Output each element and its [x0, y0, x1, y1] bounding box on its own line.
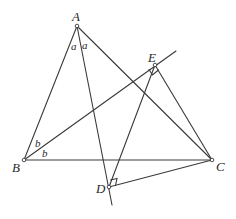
right-angle-mark-D — [111, 179, 118, 186]
bisector-AD — [77, 26, 112, 205]
label-A: A — [71, 9, 80, 24]
label-C: C — [216, 159, 225, 174]
point-A — [75, 24, 79, 28]
angle-label-a-left: a — [71, 40, 77, 52]
segment-DE — [109, 65, 155, 187]
label-E: E — [147, 50, 156, 65]
segment-AB — [24, 26, 77, 160]
angle-label-b-lower: b — [42, 147, 48, 159]
point-B — [22, 158, 26, 162]
angle-label-a-right: a — [82, 39, 88, 51]
angle-label-b-upper: b — [35, 137, 41, 149]
label-B: B — [12, 160, 20, 175]
label-D: D — [95, 181, 106, 196]
geometry-diagram: A B C D E a a b b — [0, 0, 236, 219]
point-D — [107, 185, 111, 189]
right-angle-mark-E — [149, 70, 159, 76]
point-C — [210, 158, 214, 162]
segment-CD — [109, 160, 212, 187]
